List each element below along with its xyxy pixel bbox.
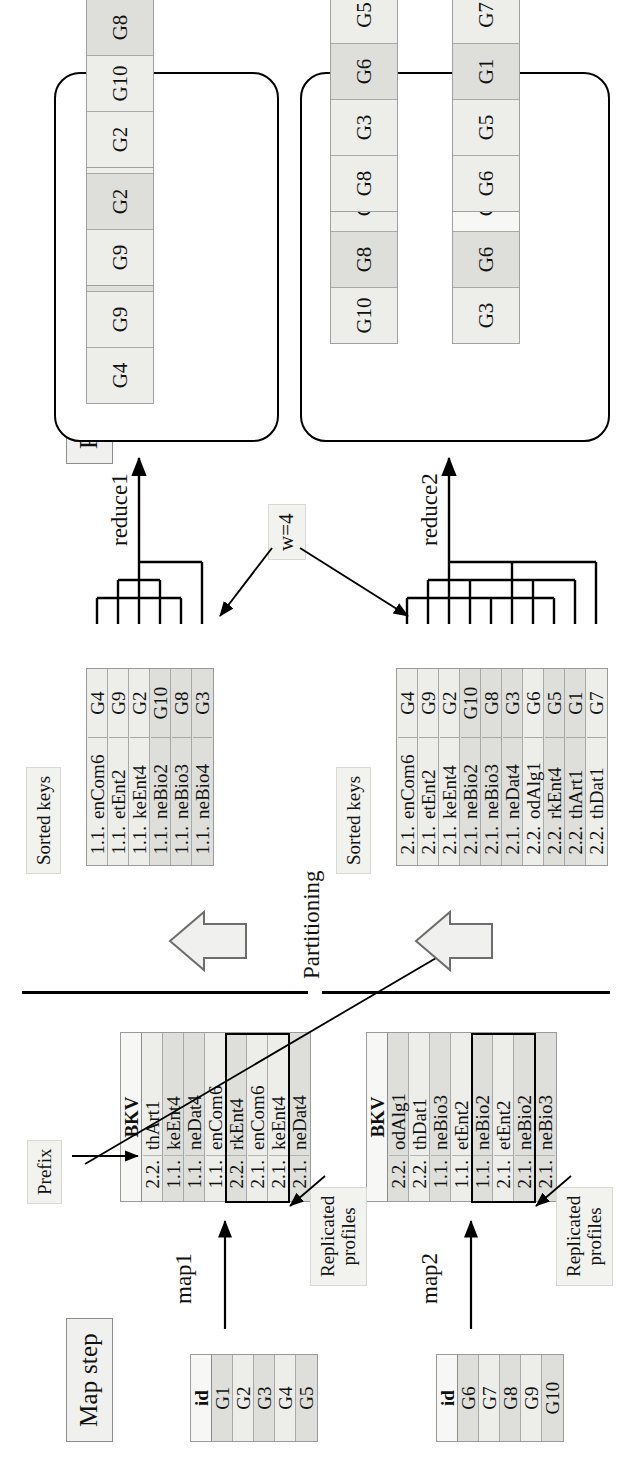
sk-prefix: 2.1. [461,823,480,865]
sk-group: G2 [130,669,149,737]
input-block-2-header: id [437,1355,458,1441]
rotated-figure-wrapper: Map step Reduce step id G1 G2 G3 G4 G5 i… [0,0,633,1464]
sk-prefix: 2.2. [587,823,606,865]
sk-key: neBio2 [461,737,480,823]
input-block-2: id G6 G7 G8 G9 G10 [436,1354,564,1442]
sorted-keys-row: 2.2. odAlg1 G6 [523,669,544,865]
sorted-keys-row: 1.1. neBio2 G10 [150,669,171,865]
bkv-key: neBio2 [515,1033,534,1155]
window-cell: G2 [87,173,153,229]
partition-arrow-1 [168,892,278,972]
input-block-2-row: G6 [458,1355,479,1441]
sk-key: neBio3 [172,737,191,823]
figure-canvas: Map step Reduce step id G1 G2 G3 G4 G5 i… [0,0,633,1464]
sk-group: G10 [461,669,480,737]
sk-key: rkEnt4 [545,737,564,823]
window-cell: G5 [453,99,519,155]
sk-key: thArt1 [566,737,585,823]
window-cell: G3 [331,99,397,155]
sk-group: G9 [419,669,438,737]
sk-key: etEnt2 [109,737,128,823]
partitioning-label: Partitioning [300,870,323,979]
window-cell: G8 [87,0,153,55]
sk-key: neDat4 [503,737,522,823]
window-cell: G6 [331,43,397,99]
sk-prefix: 2.2. [566,823,585,865]
sk-prefix: 2.1. [440,823,459,865]
sk-group: G4 [88,669,107,737]
window-size-pointer-arrows [210,454,490,634]
input-block-2-row: G10 [542,1355,563,1441]
partition-divider-bottom [322,992,610,995]
bkv-key: neBio3 [536,1033,555,1155]
sk-group: G3 [193,669,212,737]
input-block-1-row: G5 [296,1355,317,1441]
window-cell: G6 [453,155,519,211]
sk-key: neBio4 [193,737,212,823]
sk-group: G5 [545,669,564,737]
replicated-pointer-1 [285,1154,327,1224]
sk-prefix: 2.2. [524,823,543,865]
sk-group: G9 [109,669,128,737]
reducer-2-window-4: G6 G5 G1 G7 [452,0,520,212]
sk-key: neBio3 [482,737,501,823]
sk-group: G7 [587,669,606,737]
sorted-keys-row: 2.1. neDat4 G3 [502,669,523,865]
sorted-keys-row: 2.2. thDat1 G7 [586,669,607,865]
map1-arrow [195,1209,255,1329]
sk-key: enCom6 [88,737,107,823]
window-cell: G8 [331,231,397,287]
window-cell: G5 [331,0,397,43]
sk-key: keEnt4 [440,737,459,823]
partition-divider-top [22,992,308,995]
reduce1-label: reduce1 [108,473,131,546]
input-block-1: id G1 G2 G3 G4 G5 [190,1354,318,1442]
sk-prefix: 2.1. [482,823,501,865]
window-cell: G9 [87,291,153,347]
sk-prefix: 1.1. [109,823,128,865]
sk-key: odAlg1 [524,737,543,823]
sorted-keys-row: 2.1. etEnt2 G9 [418,669,439,865]
sorted-keys-row: 2.1. neBio3 G8 [481,669,502,865]
sk-prefix: 1.1. [88,823,107,865]
map1-label: map1 [172,1253,195,1304]
input-block-1-row: G1 [212,1355,233,1441]
sorted-keys-row: 2.1. enCom6 G4 [397,669,418,865]
sk-group: G10 [151,669,170,737]
map2-arrow [441,1209,501,1329]
sk-prefix: 2.1. [398,823,417,865]
sorted-keys-row: 2.2. thArt1 G1 [565,669,586,865]
sk-group: G6 [524,669,543,737]
sk-key: thDat1 [587,737,606,823]
sk-group: G8 [172,669,191,737]
sorted-keys-row: 2.2. rkEnt4 G5 [544,669,565,865]
sk-prefix: 2.2. [545,823,564,865]
input-block-1-header: id [191,1355,212,1441]
reducer-1-window-3: G2 G10 G8 G3 [86,0,154,168]
replicated-note-line2: profiles [584,1196,605,1277]
sk-group: G2 [440,669,459,737]
input-block-2-row: G7 [479,1355,500,1441]
sorted-keys-row: 1.1. neBio3 G8 [171,669,192,865]
partition-arrow-2 [414,892,524,972]
sk-group: G3 [503,669,522,737]
sorted-keys-row: 1.1. enCom6 G4 [87,669,108,865]
sk-group: G4 [398,669,417,737]
sk-prefix: 1.1. [151,823,170,865]
sorted-keys-table-2: 2.1. enCom6 G4 2.1. etEnt2 G9 2.1. keEnt… [396,668,608,866]
sk-prefix: 1.1. [130,823,149,865]
input-block-2-row: G9 [521,1355,542,1441]
replicated-note-line2: profiles [338,1196,359,1277]
input-block-1-row: G3 [254,1355,275,1441]
sorted-keys-table-1: 1.1. enCom6 G4 1.1. etEnt2 G9 1.1. keEnt… [86,668,214,866]
sk-key: neBio2 [151,737,170,823]
sorted-keys-label-1: Sorted keys [26,767,61,874]
sk-key: enCom6 [398,737,417,823]
sk-key: keEnt4 [130,737,149,823]
window-cell: G6 [453,231,519,287]
input-block-2-row: G8 [500,1355,521,1441]
window-cell: G9 [87,229,153,285]
map2-label: map2 [418,1253,441,1304]
window-cell: G1 [453,43,519,99]
sorted-keys-label-2: Sorted keys [336,767,371,874]
